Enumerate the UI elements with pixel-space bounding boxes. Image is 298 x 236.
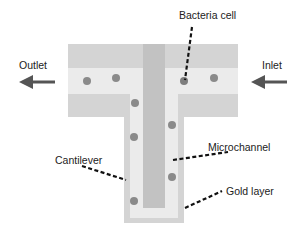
bacteria-cell-label: Bacteria cell xyxy=(179,10,236,21)
t-shaped-cantilever-diagram xyxy=(0,0,298,236)
microchannel-label: Microchannel xyxy=(208,142,270,153)
gold-layer-label: Gold layer xyxy=(226,186,274,197)
gold-layer-leader xyxy=(185,191,222,208)
outlet-arrow-icon xyxy=(19,75,55,89)
inlet-arrow-icon xyxy=(251,75,287,89)
microchannel xyxy=(143,44,165,208)
cantilever-leader xyxy=(82,166,126,180)
cantilever-label: Cantilever xyxy=(55,155,102,166)
inlet-label: Inlet xyxy=(262,60,282,71)
outlet-label: Outlet xyxy=(19,60,47,71)
